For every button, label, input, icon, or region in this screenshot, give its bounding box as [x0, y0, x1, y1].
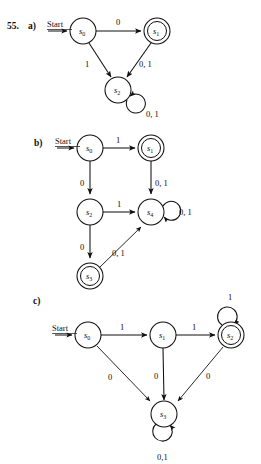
part-label-b: b)	[34, 138, 42, 149]
edge-label-b-s2-s3: 0	[80, 242, 84, 252]
edge-label-c-s1-s3: 0	[154, 371, 158, 381]
edge-label-b-s4-self: 0, 1	[179, 207, 192, 217]
edge-label-c-s1-s2: 1	[192, 322, 196, 332]
diagram-c	[55, 307, 244, 441]
edge-label-c-s0-s1: 1	[120, 322, 124, 332]
finite-state-machine-figure: 55. a) Start s0 s1 s2 0 1 0, 1 0, 1 b) S…	[0, 0, 261, 464]
edge-c-s0-s3	[97, 346, 150, 401]
start-label-b: Start	[55, 136, 72, 146]
edge-c-s1-s3	[163, 348, 164, 400]
edge-label-b-s0-s1: 1	[116, 135, 120, 145]
start-label-a: Start	[47, 19, 64, 29]
edge-b-s3-s4	[100, 227, 141, 267]
edge-label-a-s0-s1: 0	[116, 17, 120, 27]
part-label-a: a)	[28, 21, 36, 32]
part-label-c: c)	[33, 296, 40, 307]
edge-label-c-s0-s3: 0	[108, 372, 112, 382]
edge-label-b-s2-s4: 1	[117, 199, 121, 209]
edge-c-s2-s3	[178, 347, 223, 401]
edge-label-c-s2-s3: 0	[206, 371, 210, 381]
edge-label-a-s2-self: 0, 1	[146, 109, 159, 119]
start-label-c: Start	[52, 323, 69, 333]
edge-label-b-s0-s2: 0	[80, 178, 84, 188]
edge-label-c-s3-self: 0,1	[157, 452, 168, 462]
fsm-diagrams-svg: 55. a) Start s0 s1 s2 0 1 0, 1 0, 1 b) S…	[0, 0, 261, 464]
problem-number: 55.	[7, 21, 19, 31]
edge-label-b-s1-s4: 0, 1	[155, 178, 168, 188]
edge-a-s0-s2	[89, 43, 111, 77]
edge-label-a-s0-s2: 1	[85, 59, 89, 69]
diagram-b	[57, 135, 181, 289]
edge-label-c-s2-self: 1	[228, 292, 232, 302]
edge-label-a-s1-s2: 0, 1	[139, 59, 152, 69]
edge-label-b-s3-s4: 0, 1	[112, 248, 125, 258]
